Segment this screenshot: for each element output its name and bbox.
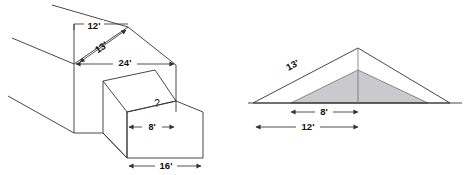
- dormer-gable-edge: [127, 101, 203, 112]
- dim-8ft-label: 8': [148, 122, 155, 132]
- dormer-roof-plane: [103, 70, 176, 112]
- left-dimension-labels: 12' 13' 24' ? 8' 16': [84, 20, 177, 171]
- shaded-inner-triangle: [291, 70, 428, 103]
- roof-left-eave-line: [12, 38, 74, 64]
- dim-12ft-label: 12': [88, 20, 101, 31]
- dormer-left-wall: [103, 81, 127, 158]
- dim-24ft-label: 24': [119, 57, 132, 68]
- right-dim-8ft-label: 8': [320, 106, 328, 117]
- left-diagram-group: [8, 5, 203, 158]
- geometry-figure-svg: 12' 13' 24' ? 8' 16' 13': [0, 0, 466, 175]
- dormer-base-left-line: [103, 133, 127, 158]
- right-diagram-group: 13': [248, 48, 462, 103]
- figure-root: 12' 13' 24' ? 8' 16' 13': [0, 0, 466, 175]
- house-base-left-line: [8, 96, 74, 133]
- dormer-front-face: [127, 112, 203, 158]
- dim-16ft-label: 16': [160, 160, 173, 171]
- dim-unknown-label: ?: [154, 98, 160, 109]
- right-dim-12ft-label: 12': [302, 121, 315, 132]
- right-dim-13ft-label: 13': [284, 57, 300, 73]
- right-dimension-labels: 8' 12': [296, 106, 333, 132]
